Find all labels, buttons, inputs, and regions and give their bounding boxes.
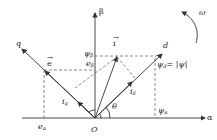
psi-d-label: ψd= |ψ| bbox=[157, 61, 187, 69]
i-d-label: id bbox=[130, 88, 136, 96]
d-axis-label: d bbox=[163, 42, 168, 50]
origin-label: O bbox=[91, 126, 98, 134]
beta-axis-label: β bbox=[99, 8, 104, 16]
psi-beta-label: ψβ bbox=[84, 50, 93, 58]
current-vector-label: →i bbox=[113, 40, 116, 48]
e-beta-label: eβ bbox=[86, 60, 94, 68]
psi-alpha-label: ψα bbox=[158, 107, 168, 115]
e-alpha-label: eα bbox=[38, 123, 46, 131]
emf-vector-label: →e bbox=[47, 60, 52, 68]
theta-label: θ bbox=[112, 103, 117, 111]
q-axis-label: q bbox=[16, 40, 21, 48]
omega-label: ω bbox=[199, 9, 206, 17]
i-q-label: iq bbox=[62, 98, 68, 106]
vector-diagram bbox=[0, 0, 217, 140]
alpha-axis-label: α bbox=[207, 114, 212, 122]
